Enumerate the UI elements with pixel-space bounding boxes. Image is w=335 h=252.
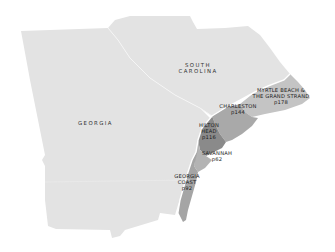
label-charleston[interactable]: CHARLESTON p144 (216, 103, 260, 115)
label-hilton-head[interactable]: HILTON HEAD p116 (195, 122, 223, 141)
hilton-page: p116 (195, 134, 223, 140)
south-carolina-label-2: CAROLINA (176, 68, 220, 74)
label-south-carolina: SOUTH CAROLINA (176, 62, 220, 74)
map-canvas (0, 0, 335, 252)
label-georgia: GEORGIA (78, 120, 113, 126)
charleston-page: p144 (216, 109, 260, 115)
savannah-page: p62 (197, 156, 237, 162)
label-savannah[interactable]: SAVANNAH p62 (197, 150, 237, 162)
georgia-label: GEORGIA (78, 120, 113, 126)
label-georgia-coast[interactable]: GEORGIA COAST p92 (170, 173, 204, 192)
coast-page: p92 (170, 185, 204, 191)
